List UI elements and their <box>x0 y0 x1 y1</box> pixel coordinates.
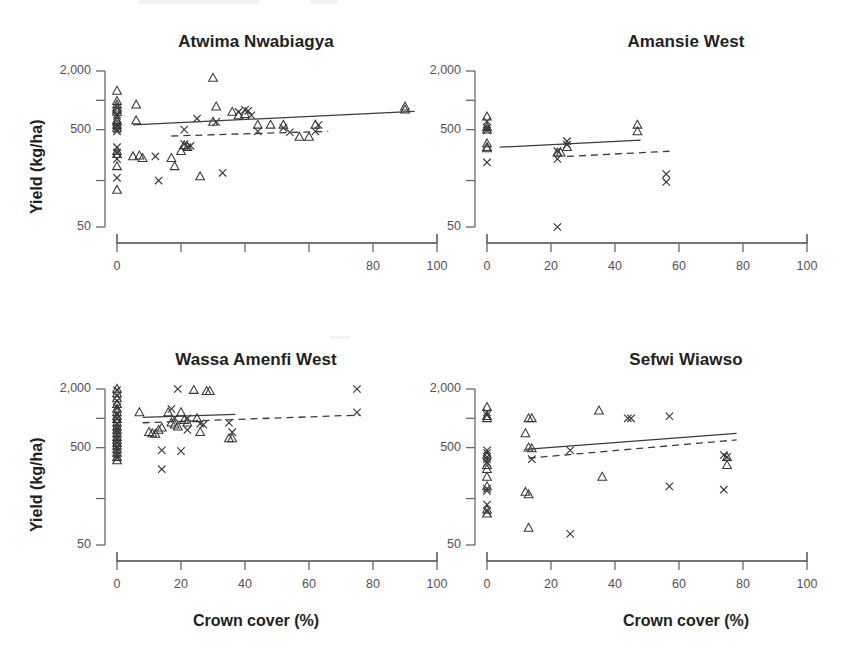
data-point-triangle <box>157 423 166 431</box>
data-point-cross <box>280 124 287 131</box>
data-point-triangle <box>401 105 410 113</box>
data-point-triangle <box>483 461 492 469</box>
plot-area-panel-2 <box>0 0 868 661</box>
data-point-triangle <box>113 389 122 397</box>
data-point-triangle <box>524 523 533 531</box>
y-tick-label-panel-1-2000: 2,000 <box>37 63 91 77</box>
data-point-triangle <box>723 461 732 469</box>
figure-canvas: Atwima NwabiagyaYield (kg/ha)2,000500500… <box>0 0 868 661</box>
data-point-cross <box>483 485 490 492</box>
y-tick-label-panel-2-50: 50 <box>407 219 461 233</box>
y-tick-label-panel-4-2000: 2,000 <box>407 381 461 395</box>
data-point-cross <box>184 143 191 150</box>
data-point-triangle <box>132 100 141 108</box>
fit-line-solid-panel-1 <box>133 111 415 124</box>
data-point-triangle <box>633 127 642 135</box>
y-tick-label-panel-3-50: 50 <box>37 537 91 551</box>
fit-line-solid-panel-2 <box>500 140 641 147</box>
data-point-cross <box>666 483 673 490</box>
data-point-triangle <box>189 385 198 393</box>
data-point-cross <box>113 155 120 162</box>
data-point-cross <box>113 143 120 150</box>
data-point-triangle <box>113 162 122 170</box>
data-point-cross <box>624 415 631 422</box>
data-point-cross <box>113 454 120 461</box>
data-point-cross <box>168 405 175 412</box>
data-point-triangle <box>135 408 144 416</box>
data-point-cross <box>152 153 159 160</box>
data-point-triangle <box>483 505 492 513</box>
data-point-triangle <box>129 152 138 160</box>
data-point-triangle <box>483 465 492 473</box>
x-tick-label-panel-4-0: 0 <box>462 577 512 591</box>
data-point-triangle <box>113 433 122 441</box>
x-tick-label-panel-1-100: 100 <box>412 259 462 273</box>
data-point-triangle <box>524 443 533 451</box>
data-point-cross <box>720 486 727 493</box>
data-point-triangle <box>311 120 320 128</box>
data-point-triangle <box>527 444 536 452</box>
data-point-triangle <box>228 107 237 115</box>
data-point-cross <box>113 111 120 118</box>
data-point-triangle <box>483 482 492 490</box>
data-point-cross <box>286 129 293 136</box>
data-point-triangle <box>483 412 492 420</box>
data-point-cross <box>483 459 490 466</box>
data-point-cross <box>184 415 191 422</box>
panel-title-4: Sefwi Wiawso <box>506 350 866 370</box>
x-tick-label-panel-2-80: 80 <box>718 259 768 273</box>
data-point-triangle <box>113 107 122 115</box>
fit-line-dashed-panel-2 <box>567 151 669 156</box>
y-tick-label-panel-3-500: 500 <box>37 440 91 454</box>
data-point-triangle <box>524 414 533 422</box>
plot-area-panel-4 <box>0 0 868 661</box>
y-tick-label-panel-4-500: 500 <box>407 440 461 454</box>
data-point-cross <box>181 126 188 133</box>
data-point-triangle <box>113 438 122 446</box>
data-point-cross <box>113 424 120 431</box>
x-tick-label-panel-2-100: 100 <box>782 259 832 273</box>
data-point-triangle <box>148 429 157 437</box>
data-point-cross <box>113 149 120 156</box>
scan-artifact-mid <box>330 336 350 339</box>
data-point-cross <box>528 456 535 463</box>
fit-line-solid-panel-4 <box>525 433 736 449</box>
data-point-cross <box>666 413 673 420</box>
data-point-triangle <box>113 123 122 131</box>
data-point-cross <box>554 155 561 162</box>
x-tick-label-panel-3-40: 40 <box>220 577 270 591</box>
data-point-cross <box>563 138 570 145</box>
data-point-triangle <box>483 472 492 480</box>
data-point-triangle <box>113 422 122 430</box>
x-tick-label-panel-4-100: 100 <box>782 577 832 591</box>
data-point-triangle <box>524 490 533 498</box>
data-point-cross <box>113 431 120 438</box>
data-point-triangle <box>193 414 202 422</box>
data-point-triangle <box>167 154 176 162</box>
data-point-cross <box>113 128 120 135</box>
data-point-triangle <box>113 412 122 420</box>
data-point-triangle <box>113 435 122 443</box>
data-point-cross <box>113 126 120 133</box>
data-point-cross <box>113 427 120 434</box>
data-point-triangle <box>483 139 492 147</box>
data-point-cross <box>254 128 261 135</box>
x-tick-label-panel-3-0: 0 <box>92 577 142 591</box>
x-tick-label-panel-4-20: 20 <box>526 577 576 591</box>
data-point-cross <box>158 447 165 454</box>
data-point-cross <box>113 112 120 119</box>
data-point-cross <box>567 447 574 454</box>
data-point-cross <box>113 411 120 418</box>
data-point-cross <box>567 530 574 537</box>
data-point-cross <box>483 159 490 166</box>
data-point-triangle <box>113 425 122 433</box>
data-point-cross <box>113 435 120 442</box>
data-point-cross <box>353 409 360 416</box>
data-point-triangle <box>113 185 122 193</box>
data-point-triangle <box>483 123 492 131</box>
data-point-cross <box>663 178 670 185</box>
y-tick-label-panel-1-50: 50 <box>37 219 91 233</box>
data-point-cross <box>229 429 236 436</box>
y-tick-label-panel-1-500: 500 <box>37 122 91 136</box>
fit-line-dashed-panel-1 <box>171 131 328 136</box>
